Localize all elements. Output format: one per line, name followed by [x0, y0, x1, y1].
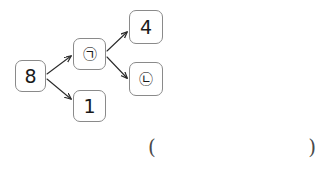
worksheet-canvas: 8 ㉠ 1 4 ㉡ ( ): [0, 0, 325, 171]
close-paren: ): [308, 135, 316, 159]
node-one: 1: [73, 90, 106, 122]
node-mark-a: ㉠: [73, 38, 106, 70]
node-mark-b: ㉡: [129, 62, 163, 96]
node-four: 4: [129, 10, 163, 44]
node-start-label: 8: [24, 67, 36, 86]
node-four-label: 4: [140, 18, 152, 37]
node-mark-b-label: ㉡: [139, 72, 153, 86]
open-paren: (: [148, 135, 156, 159]
edge-mid-a-to-four: [107, 32, 127, 51]
edge-start-to-mid-a: [47, 56, 71, 74]
edge-start-to-one: [47, 79, 71, 99]
node-start: 8: [15, 60, 46, 92]
node-one-label: 1: [83, 97, 95, 116]
node-mark-a-label: ㉠: [83, 47, 97, 61]
edge-mid-a-to-mid-b: [107, 57, 127, 78]
answer-blank[interactable]: ( ): [148, 132, 316, 162]
